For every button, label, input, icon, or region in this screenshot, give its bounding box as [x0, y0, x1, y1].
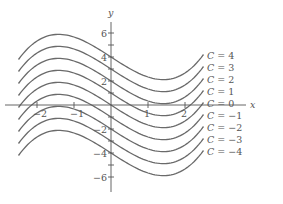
curve-label: C = −4 [207, 146, 242, 157]
curve-label: C = 2 [207, 74, 234, 85]
x-tick-label: 2 [181, 108, 187, 119]
y-tick-label: 6 [101, 28, 107, 39]
y-tick-label: 2 [101, 76, 107, 87]
curve-label: C = 4 [207, 50, 234, 61]
curve-label: C = −1 [207, 110, 242, 121]
curve-label-group: C = 4C = 3C = 2C = 1C = 0C = −1C = −2C =… [207, 50, 242, 157]
y-tick-label: −4 [93, 148, 107, 159]
x-tick-label: −1 [70, 108, 84, 119]
family-of-curves-chart: x y −2−112642−2−4−6 C = 4C = 3C = 2C = 1… [0, 0, 283, 204]
x-axis-label: x [250, 99, 256, 110]
curve-label: C = −2 [207, 122, 242, 133]
curve-label: C = 0 [207, 98, 234, 109]
curve-label: C = 1 [207, 86, 234, 97]
y-tick-label: −6 [93, 172, 107, 183]
x-tick-label: −2 [33, 108, 47, 119]
x-tick-label: 1 [144, 108, 150, 119]
y-tick-label: 4 [101, 52, 107, 63]
curve-label: C = 3 [207, 62, 234, 73]
y-axis-label: y [107, 7, 114, 18]
y-tick-label: −2 [93, 124, 107, 135]
curve-label: C = −3 [207, 134, 242, 145]
